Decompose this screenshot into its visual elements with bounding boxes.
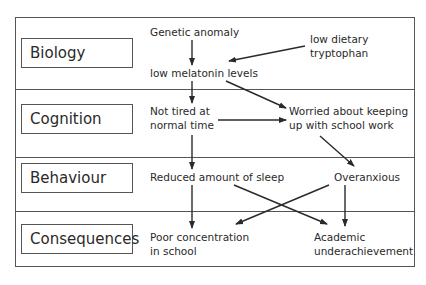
arrow-tryptophan-to-melatonin (229, 46, 305, 61)
arrows-layer (0, 0, 426, 285)
arrow-worried-to-overanxious (320, 136, 354, 166)
arrow-melatonin-to-worried (226, 81, 286, 108)
arrow-reduced-to-academic (234, 185, 327, 224)
arrow-overanxious-to-poor (236, 185, 329, 224)
